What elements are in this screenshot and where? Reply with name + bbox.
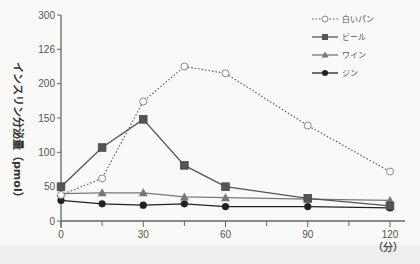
legend-label: ビール (342, 33, 366, 42)
marker-filled-circle (140, 202, 147, 209)
insulin-chart: 0501001502001263000306090120（分）インスリン分泌量（… (0, 0, 420, 264)
y-tick-label: 126 (38, 44, 55, 55)
legend-label: 白いパン (342, 14, 374, 24)
marker-square (139, 116, 147, 124)
marker-open-circle (140, 98, 147, 105)
marker-open-circle (58, 191, 65, 198)
x-tick-label: 60 (220, 229, 232, 240)
legend-marker (322, 16, 328, 22)
marker-filled-circle (304, 203, 311, 210)
y-tick-label: 200 (38, 78, 55, 89)
marker-filled-circle (181, 200, 188, 207)
marker-square (57, 183, 65, 191)
marker-filled-circle (99, 200, 106, 207)
y-tick-label: 0 (49, 216, 55, 227)
y-tick-label: 150 (38, 113, 55, 124)
marker-open-circle (222, 70, 229, 77)
marker-square (222, 183, 230, 191)
marker-square (386, 202, 394, 210)
legend-label: ジン (342, 69, 358, 78)
y-tick-label: 300 (38, 10, 55, 21)
chart-canvas: 0501001502001263000306090120（分）インスリン分泌量（… (0, 0, 420, 264)
legend-label: ワイン (342, 51, 366, 60)
x-tick-label: 0 (58, 229, 64, 240)
marker-square (304, 195, 312, 203)
marker-square (98, 144, 106, 152)
legend-marker (322, 70, 328, 76)
marker-square (181, 162, 189, 170)
marker-open-circle (99, 175, 106, 182)
marker-open-circle (181, 63, 188, 70)
x-axis-unit: （分） (373, 241, 403, 253)
x-tick-label: 30 (138, 229, 150, 240)
x-tick-label: 90 (302, 229, 314, 240)
marker-open-circle (387, 168, 394, 175)
x-tick-label: 120 (382, 229, 399, 240)
y-tick-label: 100 (38, 147, 55, 158)
series-line (61, 67, 390, 195)
marker-open-circle (304, 122, 311, 129)
y-tick-label: 50 (44, 181, 56, 192)
legend-marker (322, 34, 328, 40)
y-axis-label: インスリン分泌量（pmol） (11, 62, 25, 203)
marker-filled-circle (222, 203, 229, 210)
